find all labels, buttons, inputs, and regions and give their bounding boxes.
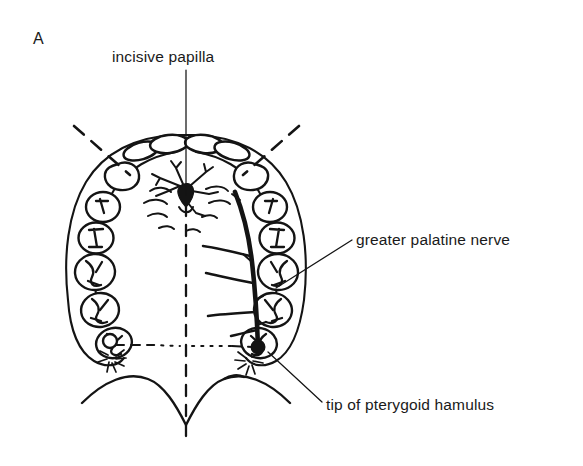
palate-anatomy-diagram: A <box>0 0 583 466</box>
teeth-left-quadrant <box>74 163 140 362</box>
gp-branch-2 <box>206 273 253 283</box>
label-tip-of-pterygoid-hamulus: tip of pterygoid hamulus <box>326 396 494 413</box>
vibrating-line <box>115 345 252 347</box>
label-greater-palatine-nerve: greater palatine nerve <box>356 231 510 248</box>
hamulus-left-circle <box>103 334 117 348</box>
tooth-lateral-incisor-right <box>212 138 251 164</box>
leader-tip-of-pterygoid-hamulus <box>268 352 322 402</box>
teeth-right-quadrant <box>234 163 300 362</box>
figure-root: A <box>0 0 583 466</box>
tooth-canine-right <box>234 163 268 190</box>
hamulus-right-dot <box>252 341 265 354</box>
soft-palate-margin <box>82 375 290 425</box>
label-incisive-papilla: incisive papilla <box>112 48 215 65</box>
tooth-canine-left <box>105 163 139 190</box>
gp-branch-3 <box>208 312 256 316</box>
panel-label: A <box>33 30 44 47</box>
